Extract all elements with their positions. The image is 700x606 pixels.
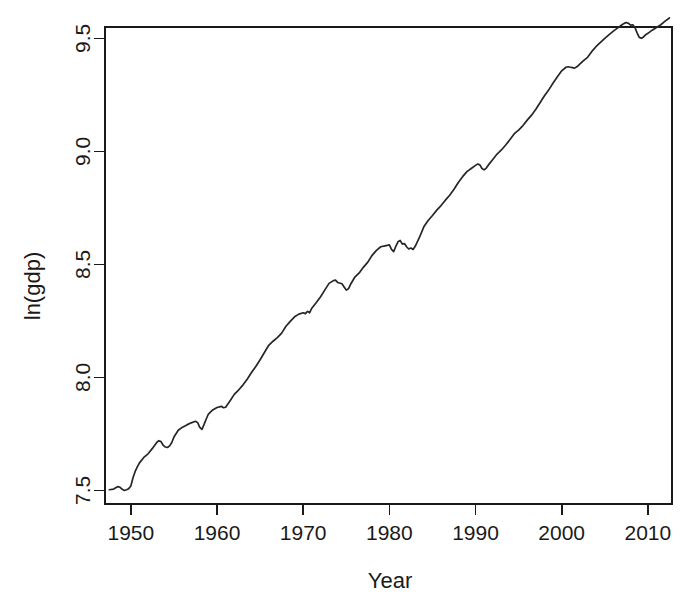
y-axis-tick-labels: 7.58.08.59.09.5 <box>72 24 95 505</box>
y-tick-label: 8.5 <box>72 250 95 279</box>
y-axis-title: ln(gdp) <box>20 252 45 320</box>
x-tick-label: 2000 <box>538 521 585 544</box>
y-tick-label: 8.0 <box>72 363 95 392</box>
y-tick-label: 9.5 <box>72 24 95 53</box>
x-tick-label: 1980 <box>366 521 413 544</box>
x-tick-label: 1960 <box>194 521 241 544</box>
line-chart: 1950196019701980199020002010 7.58.08.59.… <box>0 0 700 606</box>
x-tick-label: 1950 <box>107 521 154 544</box>
y-axis-ticks <box>94 38 105 490</box>
x-tick-label: 1990 <box>452 521 499 544</box>
y-tick-label: 7.5 <box>72 476 95 505</box>
y-tick-label: 9.0 <box>72 137 95 166</box>
x-tick-label: 2010 <box>625 521 672 544</box>
x-tick-label: 1970 <box>280 521 327 544</box>
x-axis-ticks <box>131 504 648 515</box>
x-axis-tick-labels: 1950196019701980199020002010 <box>107 521 671 544</box>
plot-background <box>105 27 672 504</box>
x-axis-title: Year <box>368 568 412 593</box>
chart-figure: 1950196019701980199020002010 7.58.08.59.… <box>0 0 700 606</box>
